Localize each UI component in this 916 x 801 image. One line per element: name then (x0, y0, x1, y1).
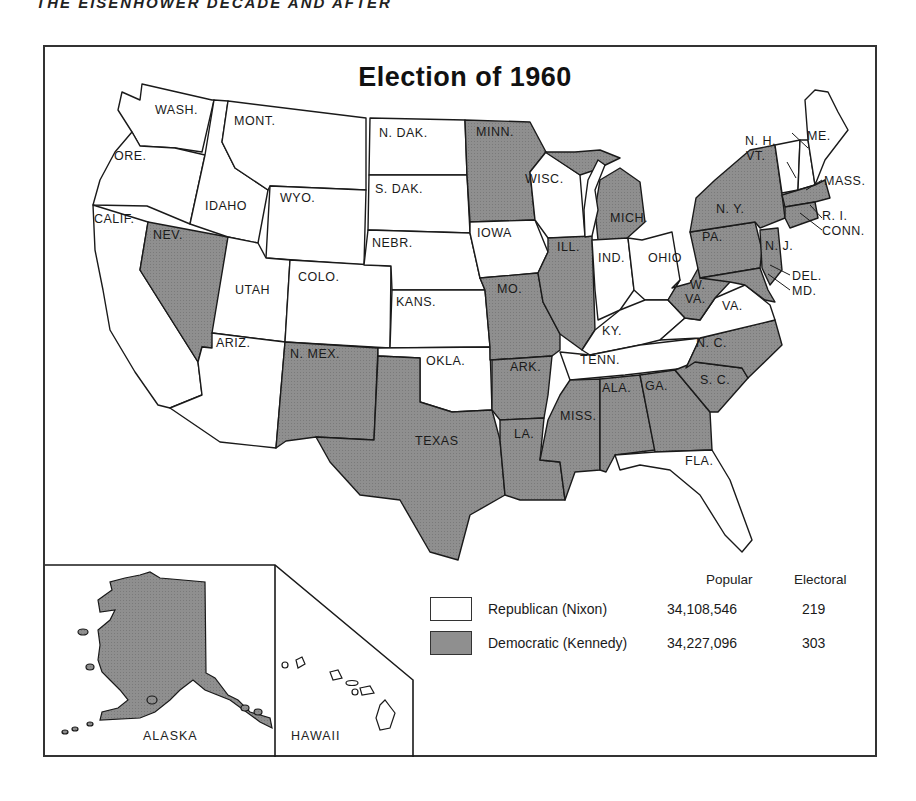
label-minn: MINN. (476, 125, 514, 139)
state-ohio (628, 232, 680, 300)
label-ndak: N. DAK. (379, 126, 428, 140)
legend: Popular Electoral Republican (Nixon) 34,… (430, 567, 870, 667)
label-okla: OKLA. (426, 354, 465, 368)
legend-header-electoral: Electoral (794, 572, 847, 587)
label-mo: MO. (497, 282, 522, 296)
label-ariz: ARIZ. (216, 336, 250, 350)
label-ala: ALA. (602, 381, 631, 395)
legend-popular-vote: 34,227,096 (667, 635, 737, 651)
label-ga: GA. (645, 379, 668, 393)
legend-header-popular: Popular (706, 572, 753, 587)
label-ri: R. I. (822, 209, 847, 223)
label-md: MD. (792, 284, 816, 298)
legend-party: Democratic (Kennedy) (488, 635, 627, 651)
label-wva-w: W. (690, 278, 706, 292)
legend-electoral-vote: 219 (802, 601, 825, 617)
state-conn-ri (785, 202, 818, 228)
democratic-swatch (430, 631, 472, 655)
label-calif: CALIF. (94, 212, 135, 226)
state-hawaii (282, 657, 395, 730)
label-me: ME. (807, 129, 831, 143)
label-ill: ILL. (557, 240, 580, 254)
label-miss: MISS. (560, 409, 597, 423)
legend-popular-vote: 34,108,546 (667, 601, 737, 617)
us-election-map: WASH. ORE. CALIF. NEV. IDAHO MONT. WYO. … (0, 0, 916, 801)
label-wisc: WISC. (525, 172, 564, 186)
label-colo: COLO. (298, 270, 339, 284)
label-iowa: IOWA (477, 226, 512, 240)
label-nmex: N. MEX. (290, 347, 340, 361)
label-nebr: NEBR. (372, 236, 413, 250)
map-title: Election of 1960 (280, 62, 650, 93)
label-texas: TEXAS (415, 434, 459, 448)
label-utah: UTAH (235, 283, 270, 297)
label-nh: N. H. (745, 134, 776, 148)
label-ark: ARK. (510, 360, 541, 374)
label-ky: KY. (602, 324, 622, 338)
state-ny (690, 145, 785, 232)
label-tenn: TENN. (580, 353, 620, 367)
label-nj: N. J. (765, 239, 793, 253)
label-kans: KANS. (396, 295, 436, 309)
label-la: LA. (514, 427, 534, 441)
label-wash: WASH. (155, 103, 198, 117)
label-idaho: IDAHO (205, 199, 247, 213)
label-fla: FLA. (685, 454, 713, 468)
label-wva-va: VA. (685, 292, 706, 306)
label-wyo: WYO. (280, 191, 315, 205)
label-conn: CONN. (822, 224, 865, 238)
label-sc: S. C. (700, 373, 730, 387)
label-vt: VT. (746, 149, 766, 163)
label-pa: PA. (702, 230, 723, 244)
label-ohio: OHIO (648, 251, 682, 265)
inset-label-hawaii: HAWAII (291, 729, 341, 743)
legend-row-democratic: Democratic (Kennedy) 34,227,096 303 (430, 631, 870, 659)
label-mich: MICH. (610, 211, 648, 225)
label-del: DEL. (792, 269, 822, 283)
legend-row-republican: Republican (Nixon) 34,108,546 219 (430, 597, 870, 625)
label-mont: MONT. (234, 114, 275, 128)
label-va: VA. (722, 299, 743, 313)
legend-party: Republican (Nixon) (488, 601, 607, 617)
label-ny: N. Y. (716, 202, 744, 216)
legend-electoral-vote: 303 (802, 635, 825, 651)
label-ore: ORE. (114, 149, 147, 163)
label-nc: N. C. (696, 336, 727, 350)
inset-label-alaska: ALASKA (143, 729, 198, 743)
label-mass: MASS. (824, 174, 865, 188)
label-nev: NEV. (153, 228, 183, 242)
label-ind: IND. (598, 251, 625, 265)
state-mich (595, 168, 645, 240)
republican-swatch (430, 597, 472, 621)
label-sdak: S. DAK. (375, 182, 423, 196)
state-fla (615, 450, 752, 552)
